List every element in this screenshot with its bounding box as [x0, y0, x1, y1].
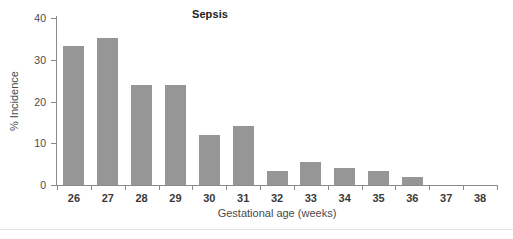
x-tick-mark [497, 185, 498, 190]
x-tick-mark [260, 185, 261, 190]
x-tick-mark [328, 185, 329, 190]
x-axis-line [56, 185, 498, 186]
y-tick-label: 20 [20, 96, 46, 108]
bar-33 [300, 162, 321, 185]
bar-36 [402, 177, 423, 185]
bar-27 [97, 38, 118, 185]
bar-34 [334, 168, 355, 185]
x-tick-label: 27 [91, 192, 125, 205]
x-tick-label: 31 [226, 192, 260, 205]
x-tick-label: 37 [429, 192, 463, 205]
y-tick-label: 0 [20, 179, 46, 191]
footer-divider [0, 229, 513, 230]
x-tick-label: 36 [395, 192, 429, 205]
x-tick-label: 35 [362, 192, 396, 205]
x-tick-mark [362, 185, 363, 190]
x-tick-label: 26 [57, 192, 91, 205]
bar-28 [131, 85, 152, 185]
bar-29 [165, 85, 186, 185]
bar-35 [368, 171, 389, 185]
y-axis-title: % Incidence [8, 46, 20, 156]
x-tick-mark [91, 185, 92, 190]
x-tick-mark [463, 185, 464, 190]
y-tick-label: 40 [20, 12, 46, 24]
y-tick-label: 10 [20, 137, 46, 149]
bar-30 [199, 135, 220, 185]
x-tick-mark [125, 185, 126, 190]
x-tick-label: 33 [294, 192, 328, 205]
y-tick-label: 30 [20, 54, 46, 66]
x-tick-mark [57, 185, 58, 190]
x-tick-label: 34 [328, 192, 362, 205]
bars-layer [57, 18, 497, 185]
x-tick-label: 30 [192, 192, 226, 205]
x-tick-mark [395, 185, 396, 190]
chart-figure: Sepsis 010203040 26272829303132333435363… [0, 0, 513, 239]
x-axis-title: Gestational age (weeks) [57, 207, 497, 219]
bar-31 [233, 126, 254, 185]
bar-32 [267, 171, 288, 185]
x-tick-label: 38 [463, 192, 497, 205]
x-tick-label: 28 [125, 192, 159, 205]
x-tick-label: 29 [158, 192, 192, 205]
x-tick-mark [226, 185, 227, 190]
x-tick-mark [192, 185, 193, 190]
x-tick-label: 32 [260, 192, 294, 205]
bar-26 [63, 46, 84, 185]
x-tick-mark [294, 185, 295, 190]
x-tick-mark [429, 185, 430, 190]
x-tick-mark [159, 185, 160, 190]
